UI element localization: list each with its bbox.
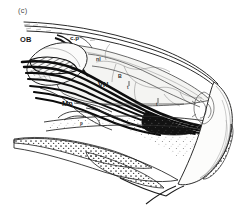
annotation-p: p <box>80 122 83 127</box>
annotation-mn: Mn <box>62 100 73 108</box>
annotation-vn: VN <box>98 81 109 89</box>
anatomical-figure <box>0 0 250 207</box>
annotation-nl: nl <box>96 57 101 62</box>
annotation-t2: t <box>156 103 158 108</box>
figure-drawing <box>0 0 250 207</box>
annotation-cp: c.p <box>70 35 79 41</box>
annotation-ob: OB <box>20 36 31 44</box>
annotation-t1: t <box>127 86 129 91</box>
annotation-b: B <box>118 74 122 79</box>
panel-label: (c) <box>18 6 27 15</box>
